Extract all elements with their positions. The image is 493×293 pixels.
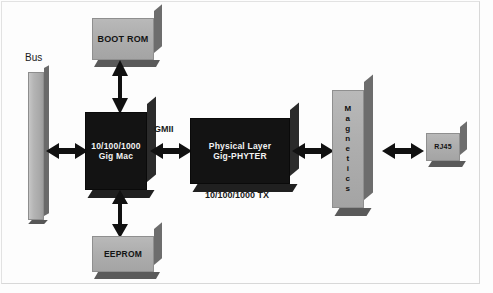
bus-label: Bus — [25, 52, 42, 63]
rj45-face: RJ45 — [426, 133, 460, 161]
magnetics-label: M a g n e t i c s — [333, 91, 363, 207]
magnetics-letter: s — [346, 184, 351, 194]
gig-phyter-line1: Physical Layer — [209, 141, 271, 151]
boot-rom-face: BOOT ROM — [92, 18, 154, 60]
bus-bar-bottom — [28, 220, 48, 224]
gig-phyter-face: Physical Layer Gig-PHYTER — [190, 118, 290, 184]
gig-mac-line1: 10/100/1000 — [91, 141, 140, 151]
magnetics-bottom — [335, 208, 372, 216]
arrow-bootrom-mac — [110, 60, 130, 114]
eeprom-face: EEPROM — [92, 236, 154, 272]
eeprom-label: EEPROM — [104, 249, 142, 259]
rj45-side — [460, 121, 467, 155]
gig-phyter-side — [290, 102, 299, 176]
gig-phyter-line2: Gig-PHYTER — [213, 151, 266, 161]
boot-rom-side — [154, 4, 162, 53]
eeprom-bottom — [94, 272, 160, 279]
magnetics-letter: c — [346, 174, 351, 184]
arrow-mac-phy — [150, 141, 192, 161]
diagram-canvas: Bus BOOT ROM 10/100/1000 Gig Mac — [0, 0, 493, 293]
magnetics-letter: a — [346, 114, 351, 124]
arrow-phy-magnetics — [292, 141, 334, 161]
rj45-block: RJ45 — [426, 133, 460, 161]
arrow-eeprom-mac — [110, 190, 130, 238]
arrow-bus-mac — [46, 141, 88, 161]
gig-phyter-block: Physical Layer Gig-PHYTER — [190, 118, 290, 184]
magnetics-letter: e — [346, 144, 351, 154]
bus-bar — [28, 72, 44, 220]
magnetics-letter: t — [346, 154, 349, 164]
tx-rate-label: 10/100/1000 TX — [205, 190, 269, 200]
rj45-label: RJ45 — [434, 143, 452, 152]
gig-mac-block: 10/100/1000 Gig Mac — [85, 112, 147, 190]
eeprom-side — [154, 222, 162, 265]
magnetics-letter: g — [345, 124, 350, 134]
magnetics-side — [364, 74, 373, 200]
magnetics-letter: i — [347, 164, 350, 174]
magnetics-letter: n — [345, 134, 350, 144]
gig-mac-side — [147, 96, 156, 182]
eeprom-block: EEPROM — [92, 236, 154, 272]
magnetics-face: M a g n e t i c s — [332, 90, 364, 208]
arrow-magnetics-rj45 — [382, 141, 424, 161]
gig-mac-line2: Gig Mac — [99, 151, 133, 161]
magnetics-letter: M — [344, 104, 351, 114]
boot-rom-block: BOOT ROM — [92, 18, 154, 60]
gmii-label: GMII — [154, 124, 174, 134]
boot-rom-label: BOOT ROM — [97, 34, 148, 45]
gig-mac-face: 10/100/1000 Gig Mac — [85, 112, 147, 190]
bus-bar-face — [28, 72, 44, 220]
rj45-bottom — [428, 161, 466, 167]
magnetics-block: M a g n e t i c s — [332, 90, 364, 208]
